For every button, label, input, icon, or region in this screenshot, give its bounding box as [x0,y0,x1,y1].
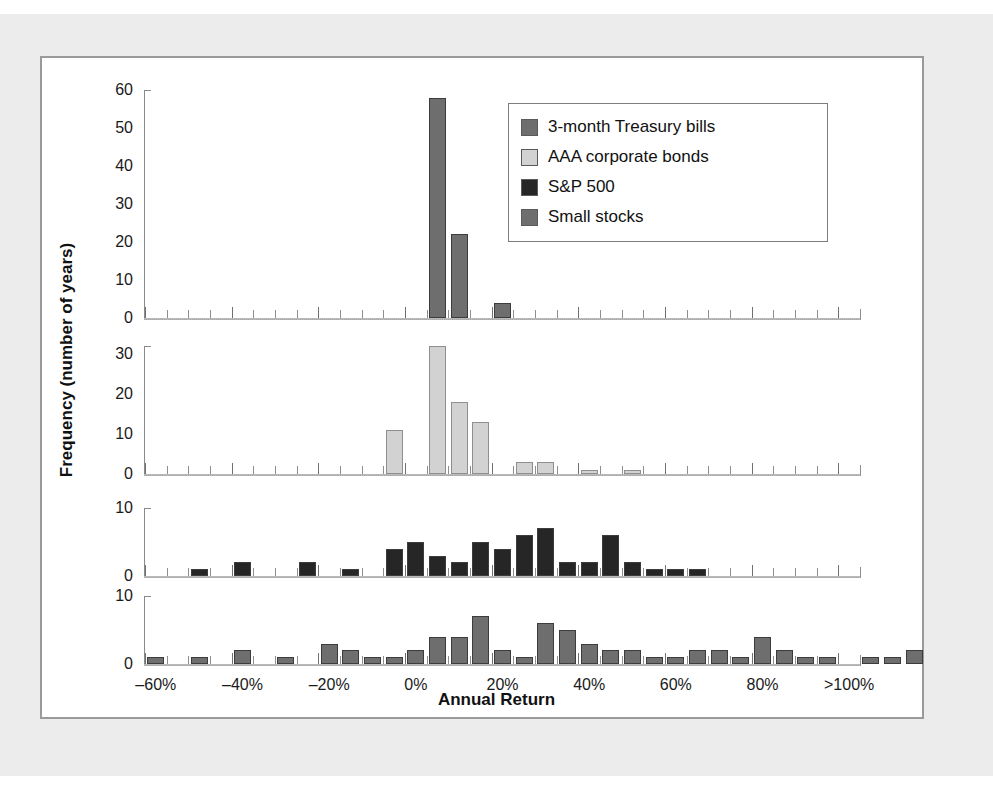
y-tick-label: 30 [73,346,133,362]
x-tick-mark [253,466,254,474]
x-tick-mark [643,310,644,318]
x-tick-mark [578,565,579,576]
x-tick-mark [513,310,514,318]
x-tick-mark [622,310,623,318]
x-tick-mark [600,310,601,318]
x-tick-mark [318,565,319,576]
panel-baseline [144,318,861,320]
x-tick-mark [167,656,168,664]
x-tick-mark [535,466,536,474]
x-tick-mark [297,310,298,318]
histogram-bar [537,462,554,474]
histogram-bar [321,644,338,664]
x-tick-mark [600,466,601,474]
x-tick-mark [188,656,189,664]
x-tick-mark [232,307,233,318]
x-tick-mark [795,656,796,664]
x-tick-mark [405,307,406,318]
y-tick-label: 0 [73,466,133,482]
x-tick-mark [275,568,276,576]
panel-baseline [144,576,861,578]
histogram-bar [472,542,489,576]
x-tick-mark [145,307,146,318]
x-tick-mark [708,310,709,318]
histogram-bar [429,637,446,664]
histogram-bar [494,650,511,664]
x-tick-mark [145,463,146,474]
y-tick-label: 0 [73,310,133,326]
x-tick-mark [817,310,818,318]
x-tick-mark [600,568,601,576]
x-tick-mark [318,463,319,474]
panel-y-axis-cap [144,90,151,91]
x-tick-mark [253,568,254,576]
histogram-bar [646,657,663,664]
x-tick-mark [383,466,384,474]
chart-legend: 3-month Treasury billsAAA corporate bond… [508,103,828,242]
x-tick-mark [752,565,753,576]
histogram-bar [602,535,619,576]
x-tick-mark [730,656,731,664]
x-tick-mark [513,568,514,576]
x-tick-mark [318,307,319,318]
x-tick-mark [773,656,774,664]
histogram-bar [732,657,749,664]
y-tick-label: 20 [73,386,133,402]
histogram-bar [451,402,468,474]
y-tick-label: 40 [73,158,133,174]
x-tick-mark [340,466,341,474]
y-tick-label: 10 [73,588,133,604]
x-tick-mark [383,310,384,318]
x-tick-mark [232,463,233,474]
panel-y-axis-cap [144,596,151,597]
histogram-bar [451,637,468,664]
x-tick-mark [210,310,211,318]
histogram-bar [581,470,598,474]
x-tick-mark [470,568,471,576]
x-tick-mark [145,653,146,664]
histogram-bar [537,623,554,664]
x-tick-mark [665,463,666,474]
x-tick-mark [297,656,298,664]
x-tick-mark [665,565,666,576]
histogram-bar [234,562,251,576]
histogram-bar [537,528,554,576]
x-tick-mark [752,307,753,318]
x-tick-mark [383,656,384,664]
x-tick-mark [817,466,818,474]
histogram-bar [581,644,598,664]
legend-item-2: AAA corporate bonds [521,142,817,172]
x-tick-mark [253,310,254,318]
histogram-bar [862,657,879,664]
panel-y-axis-line [144,346,145,474]
x-tick-mark [362,568,363,576]
y-tick-label: 0 [73,656,133,672]
legend-item-label: 3-month Treasury bills [548,117,715,137]
x-tick-mark [470,310,471,318]
histogram-bar [429,98,446,318]
x-tick-mark [492,463,493,474]
histogram-bar [667,657,684,664]
x-tick-mark [210,568,211,576]
panel-y-axis-line [144,90,145,318]
histogram-bar [667,569,684,576]
x-tick-mark [362,466,363,474]
x-tick-mark [795,466,796,474]
x-tick-mark [838,653,839,664]
histogram-bar [342,569,359,576]
x-tick-mark [470,466,471,474]
histogram-bar [342,650,359,664]
x-tick-mark [188,568,189,576]
legend-item-label: S&P 500 [548,177,615,197]
x-tick-mark [275,466,276,474]
histogram-bar [494,549,511,576]
x-tick-mark [860,568,861,576]
histogram-bar [624,562,641,576]
histogram-bar [624,650,641,664]
x-tick-mark [773,568,774,576]
chart-panel-3: 010 [42,508,926,578]
histogram-bar [147,657,164,664]
x-tick-mark [860,310,861,318]
x-tick-mark [448,656,449,664]
histogram-bar [386,657,403,664]
